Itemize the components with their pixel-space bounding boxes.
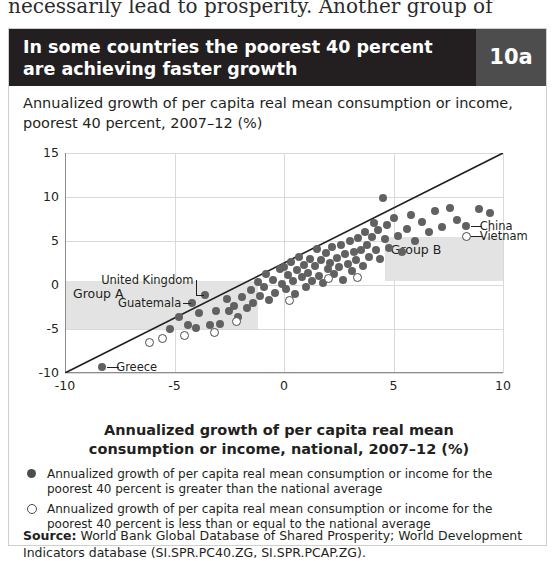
data-point	[230, 302, 238, 310]
figure-card: In some countries the poorest 40 percent…	[8, 28, 547, 546]
data-point	[418, 218, 426, 226]
data-point	[313, 245, 321, 253]
figure-header: In some countries the poorest 40 percent…	[9, 29, 546, 86]
legend-item-filled-label: Annualized growth of per capita real mea…	[47, 467, 492, 496]
plot-area-wrapper: Group AGroup BGreeceGuatemalaUnited King…	[9, 139, 546, 419]
figure-title: In some countries the poorest 40 percent…	[23, 36, 463, 80]
data-point	[145, 338, 154, 347]
data-point	[339, 276, 347, 284]
data-point	[158, 334, 167, 343]
data-point	[365, 253, 373, 261]
data-point	[256, 292, 264, 300]
data-point	[475, 205, 483, 213]
source-text: World Bank Global Database of Shared Pro…	[23, 528, 522, 560]
data-point	[398, 248, 406, 256]
data-point	[390, 214, 398, 222]
data-point	[383, 221, 391, 229]
y-tick-label: 5	[23, 233, 59, 248]
data-point	[337, 241, 345, 249]
data-point	[368, 233, 376, 241]
filled-dot-icon	[27, 469, 36, 478]
data-point	[180, 331, 189, 340]
data-point	[269, 276, 277, 284]
gridline-horizontal	[65, 153, 503, 154]
data-point	[280, 263, 288, 271]
annotation-leader-line	[183, 303, 191, 304]
y-tick-label: 15	[23, 145, 59, 160]
body-text-fragment: necessarily lead to prosperity. Another …	[8, 0, 548, 20]
data-point	[335, 263, 343, 271]
source-label: Source:	[23, 528, 77, 543]
annotation-leader-line	[471, 226, 482, 227]
data-point	[372, 246, 380, 254]
annotation-greece: Greece	[116, 360, 157, 374]
data-point	[192, 324, 200, 332]
data-point	[346, 237, 354, 245]
chart-subtitle: Annualized growth of per capita real mea…	[23, 93, 523, 133]
data-point	[210, 328, 219, 337]
data-point	[407, 211, 415, 219]
data-point	[438, 223, 446, 231]
data-point	[381, 235, 389, 243]
annotation-united-kingdom: United Kingdom	[101, 273, 193, 287]
annotation-leader-line	[471, 236, 482, 237]
x-tick-label: 10	[483, 378, 523, 393]
data-point	[379, 194, 387, 202]
data-point	[260, 283, 268, 291]
data-point	[446, 204, 454, 212]
data-point	[333, 254, 341, 262]
data-point	[282, 285, 290, 293]
data-point	[304, 269, 312, 277]
annotation-leader-line	[107, 367, 119, 368]
annotation-leader-line-vertical	[196, 280, 197, 295]
x-tick-label: 5	[374, 378, 414, 393]
data-point	[431, 207, 439, 215]
x-axis-title: Annualized growth of per capita real mea…	[49, 421, 509, 459]
data-point	[285, 296, 294, 305]
data-point	[425, 228, 433, 236]
data-point	[98, 363, 106, 371]
data-point	[353, 273, 362, 282]
scatter-plot: Group AGroup BGreeceGuatemalaUnited King…	[65, 153, 503, 373]
y-tick-label: -5	[23, 321, 59, 336]
data-point	[453, 216, 461, 224]
legend-item-filled: Annualized growth of per capita real mea…	[25, 467, 530, 497]
data-point	[195, 309, 203, 317]
data-point	[462, 222, 470, 230]
data-point	[287, 258, 295, 266]
figure-number-badge: 10a	[476, 29, 546, 86]
data-point	[363, 241, 371, 249]
data-point	[403, 225, 411, 233]
y-axis-line	[65, 153, 66, 373]
group-label-a: Group A	[73, 286, 124, 301]
annotation-vietnam: Vietnam	[480, 229, 528, 243]
data-point	[271, 289, 279, 297]
x-tick-label: 0	[264, 378, 304, 393]
data-point	[175, 313, 183, 321]
gridline-horizontal	[65, 329, 503, 330]
data-point	[486, 209, 494, 217]
gridline-horizontal	[65, 197, 503, 198]
gridline-vertical	[175, 153, 176, 373]
data-point	[394, 232, 402, 240]
data-point	[166, 325, 174, 333]
data-point	[295, 253, 303, 261]
data-point	[376, 255, 384, 263]
y-tick-label: 0	[23, 277, 59, 292]
data-point	[317, 256, 325, 264]
data-point	[374, 226, 382, 234]
x-tick-label: -5	[155, 378, 195, 393]
data-point	[232, 317, 241, 326]
data-point	[265, 296, 273, 304]
x-tick-label: -10	[45, 378, 85, 393]
open-dot-icon	[27, 504, 37, 514]
data-point	[359, 262, 367, 270]
figure-number-label: 10a	[476, 45, 546, 69]
data-point	[324, 274, 333, 283]
source-note: Source: World Bank Global Database of Sh…	[23, 527, 538, 561]
annotation-leader-line	[196, 295, 204, 296]
gridline-vertical	[503, 153, 504, 373]
data-point	[341, 250, 349, 258]
annotation-guatemala: Guatemala	[118, 296, 181, 310]
